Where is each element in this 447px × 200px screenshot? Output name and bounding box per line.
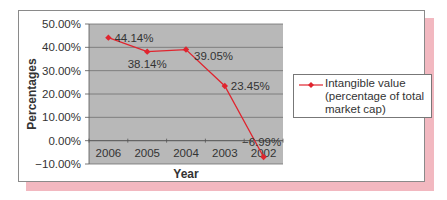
x-axis-title: Year xyxy=(173,167,199,181)
y-tick-label: 0.00% xyxy=(48,135,81,147)
x-tick-label: 2003 xyxy=(212,147,238,159)
y-tick-label: −10.00% xyxy=(35,158,81,170)
data-label: 23.45% xyxy=(231,80,270,92)
y-axis-title: Percentages xyxy=(25,58,39,130)
data-label: −6.99% xyxy=(242,136,281,148)
y-tick-label: 40.00% xyxy=(42,41,81,53)
legend-line-marker-icon xyxy=(296,77,326,97)
x-tick-label: 2006 xyxy=(96,147,122,159)
y-tick-label: 30.00% xyxy=(42,65,81,77)
x-tick-label: 2004 xyxy=(173,147,199,159)
data-label: 39.05% xyxy=(194,50,233,62)
legend: Intangible value (percentage of total ma… xyxy=(293,74,432,118)
data-label: 38.14% xyxy=(128,58,167,70)
data-label: 44.14% xyxy=(114,32,153,44)
legend-label: Intangible value (percentage of total ma… xyxy=(325,77,431,116)
y-tick-label: 50.00% xyxy=(42,18,81,30)
x-tick-label: 2005 xyxy=(134,147,160,159)
y-tick-label: 20.00% xyxy=(42,88,81,100)
y-tick-label: 10.00% xyxy=(42,111,81,123)
